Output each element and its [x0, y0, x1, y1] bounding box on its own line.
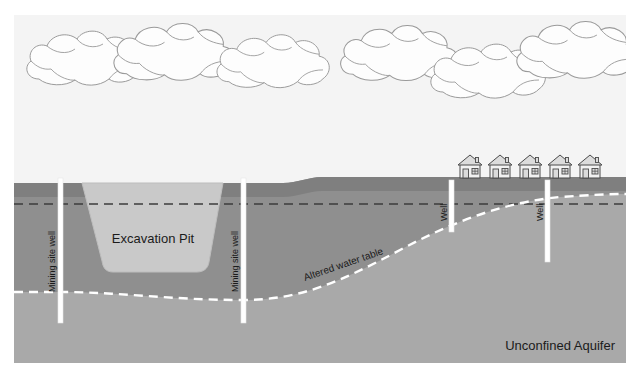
- diagram-canvas: Excavation Pit Mining site well Mining s…: [0, 0, 640, 380]
- unconfined-aquifer-label: Unconfined Aquifer: [505, 338, 616, 353]
- mining-site-well-right-label: Mining site well: [230, 231, 240, 292]
- well-village-right[interactable]: [545, 180, 550, 262]
- well-right-label: Well: [535, 204, 545, 221]
- mining-site-well-left-label: Mining site well: [47, 231, 57, 292]
- well-mining-left[interactable]: [58, 178, 63, 323]
- well-village-left[interactable]: [449, 180, 454, 232]
- well-mining-right[interactable]: [241, 178, 246, 323]
- aquifer-cross-section-svg: Excavation Pit Mining site well Mining s…: [0, 0, 640, 380]
- excavation-pit-label: Excavation Pit: [112, 231, 195, 246]
- well-left-label: Well: [439, 204, 449, 221]
- excavation-pit-shape: [82, 183, 223, 272]
